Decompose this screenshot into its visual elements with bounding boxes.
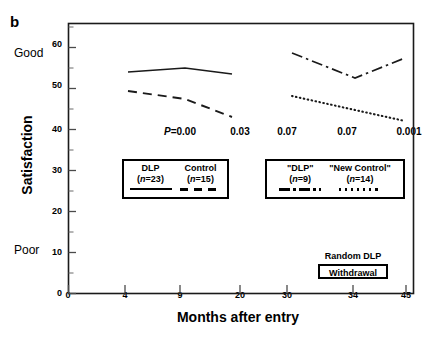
- legend-entry-new-dlp: "DLP" (n=9): [275, 161, 325, 193]
- withdrawal-box: Withdrawal: [318, 264, 388, 279]
- legend-n-rest: =9): [298, 174, 311, 184]
- x-tick-label-0: 0: [53, 290, 83, 300]
- legend-swatch-dashdot-line: [279, 188, 321, 191]
- legend-n-rest: =15): [196, 174, 214, 184]
- legend-box-right: "DLP" (n=9) "New Control" (n=14): [265, 159, 405, 199]
- legend-n-dlp: (n=23): [137, 174, 164, 185]
- legend-n-rest: =14): [355, 174, 373, 184]
- x-tick-label-34: 34: [338, 290, 368, 300]
- legend-title-control: Control: [185, 163, 217, 174]
- y-tick-label-50: 50: [36, 80, 62, 90]
- x-tick-label-4: 4: [110, 290, 140, 300]
- pvalue-rest: =0.00: [171, 126, 196, 137]
- pvalue-annotation-5: 0.001: [381, 126, 424, 137]
- y-tick-label-10: 10: [36, 247, 62, 257]
- pvalue-annotation-4: 0.07: [319, 126, 375, 137]
- series-line-dlp: [128, 68, 232, 74]
- series-line-new-control: [292, 96, 405, 121]
- panel-label: b: [10, 13, 19, 30]
- legend-n-control: (n=15): [187, 174, 214, 185]
- legend-entry-new-control: "New Control" (n=14): [325, 161, 395, 193]
- legend-title-dlp: DLP: [142, 163, 160, 174]
- x-tick-label-20: 20: [225, 290, 255, 300]
- x-tick-label-30: 30: [272, 290, 302, 300]
- legend-swatch-solid-line: [130, 188, 172, 194]
- pvalue-italic-p: P: [164, 126, 171, 137]
- withdrawal-caption: Random DLP: [313, 251, 393, 261]
- legend-entry-control: Control (n=15): [176, 161, 226, 193]
- y-tick-label-60: 60: [36, 39, 62, 49]
- series-line-new-dlp: [292, 53, 405, 78]
- legend-title-new-dlp: "DLP": [287, 163, 314, 174]
- legend-swatch-dashed-line: [180, 188, 222, 191]
- pvalue-annotation-1: P=0.00: [152, 126, 208, 137]
- x-tick-label-45: 45: [391, 290, 421, 300]
- legend-title-new-control: "New Control": [329, 163, 391, 174]
- y-tick-label-30: 30: [36, 165, 62, 175]
- x-axis-title: Months after entry: [68, 309, 408, 325]
- x-tick-label-9: 9: [165, 290, 195, 300]
- legend-swatch-dotted-line: [339, 188, 381, 191]
- legend-entry-dlp: DLP (n=23): [126, 161, 176, 196]
- legend-box-left: DLP (n=23) Control (n=15): [122, 159, 229, 199]
- legend-n-new-dlp: (n=9): [289, 174, 311, 185]
- legend-n-new-control: (n=14): [347, 174, 374, 185]
- y-axis-minor-ticks: [69, 27, 74, 273]
- y-tick-label-40: 40: [36, 124, 62, 134]
- pvalue-annotation-3: 0.07: [259, 126, 315, 137]
- series-line-control: [128, 91, 232, 117]
- legend-n-rest: =23): [146, 174, 164, 184]
- y-axis-title: Satisfaction: [19, 85, 35, 225]
- figure-panel-b: b Satisfaction Months after entry Good P…: [0, 0, 424, 337]
- y-axis-major-ticks: [69, 48, 77, 294]
- y-tick-label-20: 20: [36, 206, 62, 216]
